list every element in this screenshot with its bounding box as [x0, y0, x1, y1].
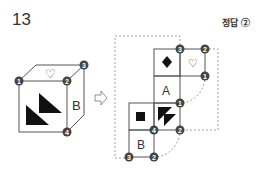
cube-top-heart: ♡ [45, 67, 56, 81]
svg-text:1: 1 [203, 73, 207, 80]
net-square [136, 112, 145, 121]
net-label-a: A [162, 84, 170, 98]
puzzle-figure: ♡ B 1 2 3 4 ♡ A B 3 2 [0, 0, 263, 177]
svg-text:3: 3 [178, 46, 182, 53]
svg-text:1: 1 [178, 100, 182, 107]
svg-text:4: 4 [152, 127, 156, 134]
svg-text:2: 2 [152, 154, 156, 161]
net-label-b: B [137, 138, 145, 152]
arrow-icon [95, 91, 107, 105]
svg-text:4: 4 [65, 129, 69, 136]
net-diamond [162, 56, 172, 68]
svg-text:1: 1 [17, 78, 21, 85]
svg-text:3: 3 [82, 62, 86, 69]
cube-front-triangles [26, 93, 62, 125]
net-triangles [158, 107, 176, 126]
svg-text:2: 2 [178, 127, 182, 134]
cube-right-label: B [72, 98, 81, 113]
svg-text:3: 3 [127, 154, 131, 161]
svg-text:2: 2 [65, 78, 69, 85]
svg-text:2: 2 [203, 46, 207, 53]
net-heart: ♡ [188, 57, 198, 70]
